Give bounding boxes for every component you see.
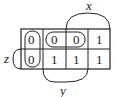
cell-r1-c4: 1	[96, 32, 103, 47]
y-label: y	[58, 83, 66, 97]
z-label: z	[3, 51, 9, 66]
cell-r2-c3: 1	[73, 52, 80, 67]
cell-r1-c3: 0	[73, 32, 80, 47]
cell-r2-c1: 0	[28, 52, 35, 67]
x-variable-arc	[66, 13, 110, 29]
karnaugh-map: x y z 0 0 0 1 0 1 1 1	[0, 0, 117, 97]
y-variable-arc	[43, 69, 88, 82]
cell-r1-c2: 0	[51, 32, 58, 47]
cell-r2-c4: 1	[96, 52, 103, 67]
cell-r1-c1: 0	[28, 32, 35, 47]
x-label: x	[85, 0, 92, 13]
z-variable-arc	[13, 49, 21, 69]
cell-r2-c2: 1	[51, 52, 58, 67]
